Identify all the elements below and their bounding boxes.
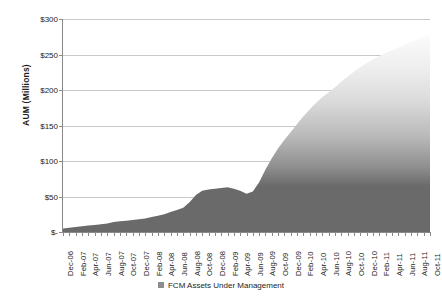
x-axis-tick-label: Jun-11 (408, 253, 417, 276)
x-axis-tick-label: Aug-09 (268, 251, 277, 276)
x-axis-tick-label: Feb-08 (155, 251, 164, 276)
legend-label: FCM Assets Under Management (168, 281, 284, 290)
x-axis-tick-label: Oct-07 (129, 253, 138, 276)
x-axis-tick-label: Dec-06 (66, 251, 75, 276)
x-axis-tick-label: Apr-07 (91, 253, 100, 276)
x-axis-tick-label: Dec-09 (294, 251, 303, 276)
plot-area (63, 19, 430, 232)
x-axis-labels: Dec-06Feb-07Apr-07Jun-07Aug-07Oct-07Dec-… (0, 236, 442, 280)
x-axis-tick-label: Oct-11 (433, 253, 442, 276)
x-axis-tick-label: Jun-08 (180, 252, 189, 276)
x-axis-tick-label: Feb-10 (306, 251, 315, 276)
x-axis-tick-label: Aug-10 (344, 251, 353, 276)
x-axis-tick-label: Apr-09 (243, 253, 252, 276)
x-axis-tick-label: Dec-08 (218, 251, 227, 276)
x-axis-tick-label: Apr-08 (167, 253, 176, 276)
y-axis-tick-label: $200 (6, 86, 58, 95)
x-axis-tick-label: Feb-09 (231, 251, 240, 276)
y-axis-tick-label: $300 (6, 15, 58, 24)
y-axis-tick-label: $50 (6, 192, 58, 201)
x-axis-tick-label: Jun-07 (104, 252, 113, 276)
x-axis-tick-label: Dec-10 (370, 251, 379, 276)
x-axis-tick-label: Feb-07 (79, 251, 88, 276)
x-axis-tick-label: Aug-11 (420, 251, 429, 276)
x-axis-tick-label: Feb-11 (382, 252, 391, 276)
y-axis-tick-label: $150 (6, 121, 58, 130)
y-axis-tick-label: $100 (6, 157, 58, 166)
area-series-fcm-aum (63, 19, 430, 232)
x-axis-tick-label: Jun-10 (332, 252, 341, 276)
x-axis-tick-label: Apr-11 (395, 253, 404, 276)
chart-legend: FCM Assets Under Management (0, 281, 442, 290)
x-axis-tick-label: Apr-10 (319, 253, 328, 276)
x-axis-tick-label: Oct-08 (205, 253, 214, 276)
y-axis-tick-label: $250 (6, 50, 58, 59)
x-axis-tick-label: Aug-07 (117, 251, 126, 276)
x-axis-tick-label: Oct-10 (357, 253, 366, 276)
x-axis-tick-label: Aug-08 (193, 251, 202, 276)
legend-swatch-icon (158, 282, 164, 288)
x-axis-tick-label: Dec-07 (142, 251, 151, 276)
x-axis-tick-label: Jun-09 (256, 252, 265, 276)
x-axis-tick-label: Oct-09 (281, 253, 290, 276)
chart-container: AUM (Millions) $-$50$100$150$200$250$300 (0, 0, 442, 298)
